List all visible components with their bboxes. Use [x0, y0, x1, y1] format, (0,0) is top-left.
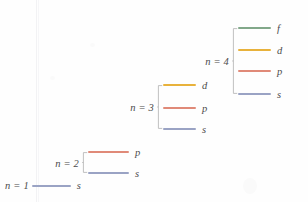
shell-group-n3: n = 3 d p s	[157, 85, 207, 129]
level-label-4s: s	[277, 89, 281, 100]
level-label-2p: p	[135, 147, 140, 158]
scan-artifact-line	[38, 0, 39, 202]
shell-group-n2: n = 2 p s	[82, 152, 132, 173]
level-label-4f: f	[277, 23, 280, 34]
level-line-4p	[238, 70, 271, 72]
level-line-4f	[238, 27, 271, 29]
level-label-4d: d	[277, 45, 282, 56]
level-line-3p	[163, 107, 196, 109]
scan-smudge	[243, 178, 257, 194]
shell-group-n1: n = 1 s	[5, 180, 81, 191]
level-label-3p: p	[202, 103, 207, 114]
level-stack-n4: f d p s	[238, 28, 282, 94]
level-line-3s	[163, 128, 196, 130]
level-line-2p	[88, 151, 129, 153]
level-label-3d: d	[202, 80, 207, 91]
shell-label-n3: n = 3	[130, 102, 157, 113]
shell-label-n4: n = 4	[205, 56, 232, 67]
level-line-2s	[88, 172, 129, 174]
level-label-3s: s	[202, 124, 206, 135]
shell-label-n1: n = 1	[5, 180, 29, 191]
level-line-4d	[238, 49, 271, 51]
energy-level-diagram: n = 4 f d p s	[0, 0, 308, 202]
level-line-4s	[238, 93, 271, 95]
level-stack-n2: p s	[88, 152, 132, 173]
level-label-2s: s	[135, 168, 139, 179]
scan-smudge	[50, 76, 55, 80]
shell-group-n4: n = 4 f d p s	[232, 28, 282, 94]
shell-label-n2: n = 2	[55, 157, 82, 168]
level-stack-n3: d p s	[163, 85, 207, 129]
level-label-1s: s	[77, 180, 81, 191]
scan-smudge	[90, 43, 95, 47]
level-line-3d	[163, 84, 196, 86]
scan-artifact-line	[36, 0, 37, 202]
level-line-1s	[32, 185, 71, 187]
level-label-4p: p	[277, 66, 282, 77]
